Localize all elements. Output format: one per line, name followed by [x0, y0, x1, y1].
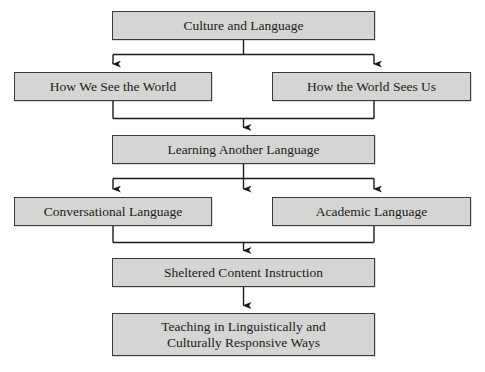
node-sheltered-content-instruction[interactable]: Sheltered Content Instruction — [112, 258, 375, 287]
node-label: Teaching in Linguistically and Culturall… — [157, 319, 329, 351]
node-label: Sheltered Content Instruction — [160, 265, 327, 281]
node-culture-and-language[interactable]: Culture and Language — [112, 11, 375, 40]
node-label: Academic Language — [312, 204, 431, 220]
node-label: Culture and Language — [180, 18, 308, 34]
node-label: Conversational Language — [40, 204, 186, 220]
node-conversational-language[interactable]: Conversational Language — [14, 197, 212, 226]
node-teaching-responsive-ways[interactable]: Teaching in Linguistically and Culturall… — [112, 313, 375, 356]
node-label: How We See the World — [46, 79, 180, 95]
flowchart-canvas: Culture and Language How We See the Worl… — [0, 0, 485, 372]
node-label: Learning Another Language — [163, 142, 323, 158]
node-academic-language[interactable]: Academic Language — [272, 197, 471, 226]
node-learning-another-language[interactable]: Learning Another Language — [112, 135, 375, 164]
node-how-the-world-sees-us[interactable]: How the World Sees Us — [272, 72, 471, 101]
node-how-we-see-the-world[interactable]: How We See the World — [14, 72, 212, 101]
node-label: How the World Sees Us — [303, 79, 440, 95]
